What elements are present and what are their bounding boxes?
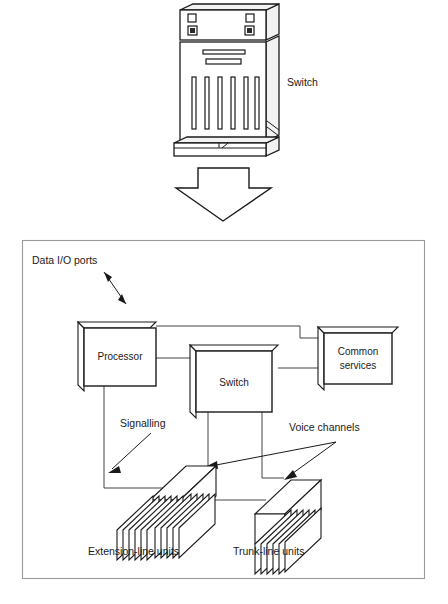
common-services-top-edge xyxy=(318,327,398,333)
common-services-face xyxy=(324,333,392,384)
block-processor[interactable]: Processor xyxy=(78,322,156,391)
down-block-arrow-icon xyxy=(176,168,271,221)
trunk-line-units-label: Trunk-line units xyxy=(233,545,304,557)
figure-root: Switch Data I/O ports xyxy=(0,0,448,604)
cabinet-top-top-face xyxy=(180,4,279,10)
voice-channels-label: Voice channels xyxy=(289,421,360,433)
cabinet-label: Switch xyxy=(287,76,318,88)
indicator-square-filled-left xyxy=(188,26,197,35)
common-services-label-line1: Common xyxy=(338,346,379,357)
switch-cabinet-icon: Switch xyxy=(174,4,318,156)
processor-left-edge xyxy=(78,322,84,391)
cabinet-base-front xyxy=(174,143,266,156)
common-services-left-edge xyxy=(318,327,324,390)
switch-top-edge xyxy=(190,345,278,351)
block-switch[interactable]: Switch xyxy=(190,345,278,418)
cabinet-panel-bar-lower xyxy=(206,59,241,64)
indicator-square-filled-right xyxy=(245,26,254,35)
cabinet-base-top xyxy=(174,137,279,143)
switch-block-label: Switch xyxy=(219,377,248,388)
signalling-label: Signalling xyxy=(120,417,166,429)
indicator-square-open-left xyxy=(188,14,196,22)
block-common-services[interactable]: Common services xyxy=(318,327,398,390)
extension-line-units-label: Extension-line units xyxy=(88,545,179,557)
indicator-square-open-right xyxy=(246,14,254,22)
common-services-label-line2: services xyxy=(340,360,377,371)
cabinet-panel-bar-upper xyxy=(203,50,245,54)
switch-architecture-diagram: Switch Data I/O ports xyxy=(0,0,448,604)
processor-label: Processor xyxy=(97,351,143,362)
switch-left-edge xyxy=(190,345,196,418)
processor-top-edge xyxy=(78,322,156,328)
data-io-ports-label: Data I/O ports xyxy=(32,254,97,266)
